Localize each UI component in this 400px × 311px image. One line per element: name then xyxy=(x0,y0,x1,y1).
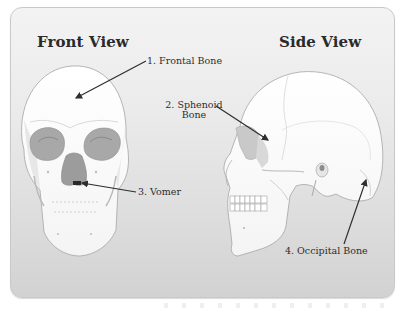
label-sphenoid-line2: Bone xyxy=(155,110,233,120)
label-sphenoid-bone: 2. Sphenoid Bone xyxy=(155,100,233,120)
side-skull xyxy=(224,72,383,256)
label-occipital-bone: 4. Occipital Bone xyxy=(285,246,368,256)
side-view-title: Side View xyxy=(279,33,361,51)
footer-faint-text xyxy=(150,303,395,308)
front-skull xyxy=(22,66,129,256)
label-frontal-bone: 1. Frontal Bone xyxy=(147,56,222,66)
front-view-title: Front View xyxy=(37,33,129,51)
label-vomer: 3. Vomer xyxy=(138,187,181,197)
